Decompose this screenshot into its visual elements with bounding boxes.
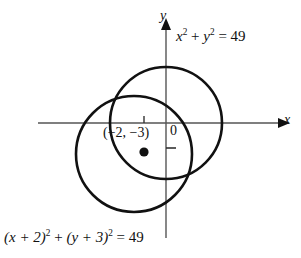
equation-origin-y-exponent: 2 xyxy=(210,27,215,37)
graph-canvas xyxy=(0,0,301,258)
x-axis-label: x xyxy=(284,113,290,127)
y-axis-label: y xyxy=(160,9,166,23)
equation-origin-y-term: y xyxy=(203,28,210,44)
equation-shifted-x-group: (x + 2) xyxy=(4,229,46,245)
circle-centered-at-minus2-minus3 xyxy=(76,96,192,212)
equation-origin-rhs: 49 xyxy=(231,28,246,44)
equation-origin-x-exponent: 2 xyxy=(183,27,188,37)
equation-circle-origin: x2 + y2 = 49 xyxy=(176,29,246,44)
center-point-marker xyxy=(139,147,148,156)
equation-shifted-plus: + xyxy=(54,229,62,245)
origin-label: 0 xyxy=(170,124,177,138)
equation-shifted-rhs: 49 xyxy=(129,229,144,245)
equation-origin-equals: = xyxy=(218,28,226,44)
coordinate-plane-figure: y x 0 (−2, −3) x2 + y2 = 49 (x + 2)2 + (… xyxy=(0,0,301,258)
equation-shifted-y-exponent: 2 xyxy=(108,228,113,238)
equation-origin-x-term: x xyxy=(176,28,183,44)
equation-shifted-y-group: (y + 3) xyxy=(66,229,108,245)
equation-origin-plus: + xyxy=(191,28,199,44)
equation-circle-shifted: (x + 2)2 + (y + 3)2 = 49 xyxy=(4,230,144,245)
equation-shifted-x-exponent: 2 xyxy=(46,228,51,238)
equation-shifted-equals: = xyxy=(117,229,125,245)
center-point-coordinate-label: (−2, −3) xyxy=(103,126,149,140)
